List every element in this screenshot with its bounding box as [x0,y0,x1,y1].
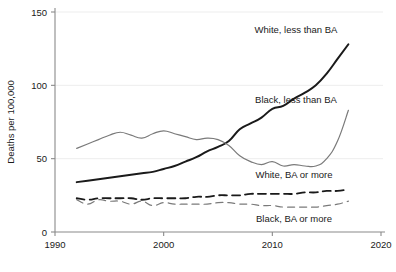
series-line-2 [77,189,349,199]
y-tick-label: 150 [31,7,47,18]
y-tick-label: 0 [42,227,47,238]
line-chart: 050100150 1990200020102020 White, less t… [0,0,396,272]
chart-container: 050100150 1990200020102020 White, less t… [0,0,396,272]
y-axis-ticks: 050100150 [31,7,55,238]
series-label-3: Black, BA or more [256,213,332,224]
x-tick-label: 2000 [153,239,174,250]
x-tick-label: 2010 [262,239,283,250]
series-label-2: White, BA or more [255,169,332,180]
x-tick-label: 1990 [44,239,65,250]
y-tick-label: 50 [36,153,47,164]
series-line-3 [77,200,349,208]
data-series-group [77,44,349,207]
x-axis-ticks: 1990200020102020 [44,232,391,250]
series-line-0 [77,44,349,182]
y-tick-label: 100 [31,80,47,91]
x-tick-label: 2020 [370,239,391,250]
series-label-0: White, less than BA [255,24,339,35]
y-axis-title: Deaths per 100,000 [5,80,16,163]
y-axis-label-text: Deaths per 100,000 [5,80,16,163]
series-label-1: Black, less than BA [255,94,338,105]
